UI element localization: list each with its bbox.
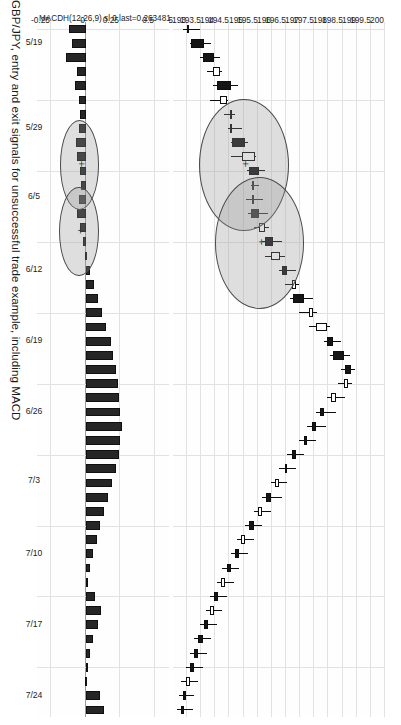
candle-body: [249, 521, 253, 530]
candle-body: [258, 507, 262, 516]
candlestick: [173, 691, 385, 700]
candle-body: [190, 663, 194, 672]
macd-gridline: [119, 22, 120, 717]
macd-histogram-bar: [86, 337, 111, 346]
candle-body: [210, 606, 214, 615]
macd-histogram-bar: [66, 53, 85, 62]
date-tick-label: 6/19: [26, 335, 43, 345]
macd-vertical-gridline: [37, 313, 169, 314]
macd-histogram-bar: [72, 39, 86, 48]
macd-histogram-bar: [86, 408, 121, 417]
macd-histogram-bar: [86, 606, 101, 615]
date-tick-label: 6/5: [28, 191, 40, 201]
candle-wick: [271, 482, 288, 483]
date-tick-label: 7/10: [26, 548, 43, 558]
candlestick: [173, 323, 385, 332]
macd-gridline: [154, 22, 155, 717]
candle-wick: [217, 582, 234, 583]
candle-wick: [279, 468, 296, 469]
candlestick: [173, 110, 385, 119]
candle-body: [316, 323, 327, 332]
macd-histogram-bar: [86, 635, 93, 644]
candlestick: [173, 81, 385, 90]
macd-histogram-bar: [86, 479, 112, 488]
candlestick: [173, 337, 385, 346]
macd-histogram-bar: [86, 393, 119, 402]
candle-body: [183, 691, 186, 700]
macd-histogram-bar: [69, 25, 86, 34]
candlestick: [173, 422, 385, 431]
candle-wick: [186, 667, 203, 668]
candlestick: [173, 649, 385, 658]
macd-histogram-bar: [86, 507, 104, 516]
macd-histogram-bar: [86, 578, 89, 587]
entry-signal-ellipse-macd-center-marker: +: [76, 161, 87, 167]
candle-wick: [327, 397, 345, 398]
macd-vertical-gridline: [37, 242, 169, 243]
candle-body: [327, 337, 333, 346]
macd-histogram-bar: [86, 280, 94, 289]
macd-histogram-bar: [86, 620, 99, 629]
candlestick: [173, 365, 385, 374]
date-tick-label: 7/3: [28, 475, 40, 485]
macd-histogram-bar: [86, 365, 117, 374]
candle-body: [345, 365, 351, 374]
macd-histogram-bar: [86, 436, 121, 445]
candle-wick: [307, 426, 325, 427]
candle-wick: [183, 29, 200, 30]
price-plot-area: ++: [173, 22, 385, 717]
macd-vertical-gridline: [37, 171, 169, 172]
macd-histogram-bar: [86, 649, 90, 658]
macd-histogram-bar: [86, 323, 107, 332]
candle-body: [213, 67, 220, 76]
candlestick: [173, 436, 385, 445]
candle-body: [344, 379, 348, 388]
candlestick: [173, 379, 385, 388]
candlestick: [173, 535, 385, 544]
candlestick: [173, 549, 385, 558]
candle-body: [181, 706, 184, 715]
exit-signal-ellipse-center-marker: +: [256, 239, 267, 245]
candlestick: [173, 507, 385, 516]
candle-body: [227, 564, 231, 573]
candle-wick: [177, 709, 193, 710]
macd-histogram-bar: [80, 110, 86, 119]
candlestick: [173, 308, 385, 317]
date-tick-label: 6/26: [26, 406, 43, 416]
macd-vertical-gridline: [37, 526, 169, 527]
candle-wick: [262, 497, 282, 498]
macd-histogram-bar: [86, 450, 119, 459]
candlestick: [173, 706, 385, 715]
entry-signal-ellipse-center-marker: +: [240, 161, 251, 167]
candlestick: [173, 25, 385, 34]
macd-histogram-bar: [86, 549, 93, 558]
candle-body: [194, 649, 198, 658]
candlestick: [173, 677, 385, 686]
macd-legend-label: MACDH(12,26,9) sl 0 last=0.263481: [39, 14, 171, 23]
candlestick: [173, 592, 385, 601]
candle-body: [241, 535, 245, 544]
macd-histogram-bar: [86, 663, 89, 672]
macd-vertical-gridline: [37, 100, 169, 101]
macd-histogram-bar: [86, 464, 117, 473]
candlestick: [173, 408, 385, 417]
exit-signal-ellipse-macd-center-marker: +: [75, 228, 86, 234]
candle-body: [333, 351, 344, 360]
candle-body: [293, 294, 304, 303]
macd-vertical-gridline: [37, 667, 169, 668]
candle-body: [217, 81, 231, 90]
macd-histogram-bar: [86, 535, 97, 544]
candle-body: [214, 592, 218, 601]
candlestick: [173, 578, 385, 587]
candle-body: [304, 436, 307, 445]
candle-wick: [222, 568, 239, 569]
macd-histogram-bar: [75, 81, 86, 90]
macd-histogram-bar: [86, 691, 100, 700]
candle-wick: [210, 596, 227, 597]
macd-histogram-bar: [86, 592, 96, 601]
macd-panel: ++ 0.50.250-0.25 MACDH(12,26,9) sl 0 las…: [37, 0, 169, 725]
candle-wick: [179, 695, 195, 696]
candle-body: [204, 620, 208, 629]
macd-vertical-gridline: [37, 29, 169, 30]
candlestick: [173, 53, 385, 62]
